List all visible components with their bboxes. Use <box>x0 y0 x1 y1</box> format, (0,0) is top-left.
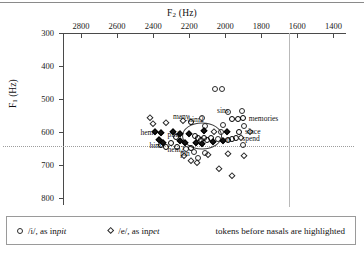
data-point-e <box>162 119 170 127</box>
y-axis-tick-label: 500 <box>41 94 54 104</box>
x-axis-tick <box>225 34 226 38</box>
y-axis-tick <box>59 99 63 100</box>
y-axis-tick-label: 700 <box>41 160 54 170</box>
data-point-e <box>204 151 212 159</box>
x-axis-tick <box>81 34 82 38</box>
x-axis-tick <box>153 34 154 38</box>
token-label: spend <box>242 134 260 143</box>
diamond-marker-icon <box>107 227 115 235</box>
token-label: him <box>150 141 162 150</box>
y-axis-tick-label: 600 <box>41 127 54 137</box>
data-point-i <box>212 86 218 92</box>
vowel-formant-figure: F2 (Hz) F1 (Hz) 280026002400220020001800… <box>0 0 364 255</box>
legend-example-pit: pit <box>57 226 67 236</box>
data-point-i <box>240 115 246 121</box>
y-axis-title: F1 (Hz) <box>8 79 19 108</box>
circle-marker-icon <box>17 228 23 234</box>
y-axis-tick-label: 800 <box>41 193 54 203</box>
x-axis-tick-label: 2200 <box>181 21 198 31</box>
x-axis-line <box>63 33 346 34</box>
y-axis-tick <box>59 33 63 34</box>
token-label: hem <box>141 128 154 137</box>
data-point-i <box>220 122 226 128</box>
x-axis-tick <box>333 34 334 38</box>
x-axis-title: F2 (Hz) <box>0 8 364 19</box>
y-axis-title-f: F <box>8 103 18 108</box>
x-axis-title-unit: (Hz) <box>176 8 197 18</box>
legend-label-i: /i/, as in <box>28 226 57 236</box>
legend-entry-i: /i/, as in pit <box>17 226 66 236</box>
data-point-e <box>193 160 201 168</box>
legend-example-pet: pet <box>149 226 160 236</box>
y-axis-line <box>63 33 64 205</box>
y-axis-tick-label: 300 <box>41 28 54 38</box>
x-axis-tick-label: 1400 <box>325 21 342 31</box>
token-label: him2 <box>188 115 203 124</box>
y-axis-title-subscript: 1 <box>11 99 19 103</box>
token-label: pin2 <box>168 130 181 139</box>
y-axis-tick-label: 400 <box>41 61 54 71</box>
y-axis-title-unit: (Hz) <box>8 79 18 99</box>
legend-note: tokens before nasals are highlighted <box>216 226 345 236</box>
data-point-i <box>239 108 245 114</box>
x-axis-tick-label: 2400 <box>145 21 162 31</box>
x-axis-tick <box>117 34 118 38</box>
data-point-e <box>149 120 157 128</box>
data-point-e <box>215 165 223 173</box>
legend-label-e: /e/, as in <box>118 226 148 236</box>
y-axis-tick <box>59 165 63 166</box>
x-axis-tick <box>189 34 190 38</box>
data-point-e <box>224 150 232 158</box>
x-axis-tick-label: 1600 <box>289 21 306 31</box>
y-axis-tick <box>59 66 63 67</box>
x-axis-tick <box>297 34 298 38</box>
token-label: sins <box>217 106 229 115</box>
data-point-e <box>228 172 236 180</box>
data-point-i <box>191 149 197 155</box>
token-label: many <box>173 112 190 121</box>
data-point-i <box>240 142 246 148</box>
x-axis-tick-label: 2000 <box>217 21 234 31</box>
plot-area: 2800260024002200200018001600140030040050… <box>63 33 346 205</box>
x-axis-tick <box>261 34 262 38</box>
y-axis-tick <box>59 132 63 133</box>
x-axis-tick-label: 2600 <box>109 21 126 31</box>
data-point-i <box>219 86 225 92</box>
token-label: pin <box>180 149 190 158</box>
token-label: ten <box>222 135 231 144</box>
x-axis-tick-label: 1800 <box>253 21 270 31</box>
x-axis-tick-label: 2800 <box>73 21 90 31</box>
figure-top-rule <box>0 2 364 3</box>
reference-line-vertical <box>289 33 290 207</box>
legend: /i/, as in pit /e/, as in pet tokens bef… <box>6 216 356 245</box>
legend-entry-e: /e/, as in pet <box>108 226 160 236</box>
y-axis-tick <box>59 198 63 199</box>
data-point-e <box>240 152 248 160</box>
token-label: memories <box>249 114 279 123</box>
